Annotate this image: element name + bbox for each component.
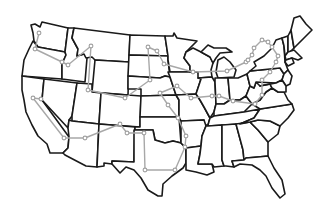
route-node <box>183 145 187 149</box>
route-node <box>155 49 159 53</box>
state-maine <box>291 16 312 48</box>
route-node <box>33 47 37 51</box>
route-node <box>225 69 229 73</box>
route-node <box>89 44 93 48</box>
route-node <box>37 31 41 35</box>
state-massachusetts <box>285 50 302 60</box>
route-node <box>146 45 150 49</box>
route-node <box>125 131 129 135</box>
route-node <box>268 70 272 74</box>
route-node <box>143 168 147 172</box>
route-node <box>142 131 146 135</box>
route-node <box>270 45 274 49</box>
route-node <box>66 63 70 67</box>
route-node <box>266 40 270 44</box>
route-node <box>184 134 188 138</box>
route-node <box>148 78 152 82</box>
route-node <box>176 116 180 120</box>
route-node <box>191 70 195 74</box>
state-arizona <box>63 120 99 167</box>
route-node <box>189 96 193 100</box>
state-kansas <box>140 95 179 117</box>
route-node <box>231 99 235 103</box>
route-node <box>166 103 170 107</box>
route-node <box>173 168 177 172</box>
route-node <box>253 102 257 106</box>
route-node <box>276 54 280 58</box>
state-florida <box>232 156 285 198</box>
route-node <box>274 60 278 64</box>
state-connecticut <box>285 58 294 66</box>
us-map <box>0 0 333 217</box>
route-node <box>210 94 214 98</box>
route-node <box>86 88 90 92</box>
route-node <box>62 136 66 140</box>
map-canvas <box>0 0 333 217</box>
state-wyoming <box>92 60 129 95</box>
route-node <box>83 136 87 140</box>
route-node <box>39 97 43 101</box>
route-node <box>260 38 264 42</box>
route-node <box>118 122 122 126</box>
route-node <box>60 60 64 64</box>
route-node <box>246 58 250 62</box>
route-node <box>260 78 264 82</box>
route-node <box>162 62 166 66</box>
route-node <box>217 94 221 98</box>
route-node <box>123 96 127 100</box>
route-node <box>250 53 254 57</box>
route-node <box>260 93 264 97</box>
route-node <box>158 91 162 95</box>
route-node <box>252 46 256 50</box>
route-node <box>31 96 35 100</box>
route-node <box>175 84 179 88</box>
